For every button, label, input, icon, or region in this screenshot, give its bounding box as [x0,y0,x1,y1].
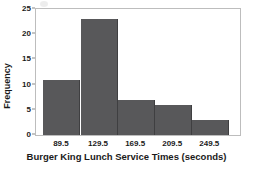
y-axis-tick-label: 10 [22,79,31,88]
y-axis-tick-label: 15 [22,54,31,63]
x-axis-tick-labels: 89.5129.5169.5209.5249.5 [35,137,241,150]
histogram-bar [118,100,155,135]
plot-area [35,8,241,136]
y-axis-title-text: Frequency [2,63,12,109]
x-axis-tick-label: 89.5 [53,139,69,148]
histogram-figure: Frequency 0510152025 89.5129.5169.5209.5… [0,0,253,174]
x-axis-tick-label: 249.5 [199,139,219,148]
histogram-bar [155,105,192,135]
y-axis-tick-label: 0 [27,130,31,139]
histogram-bar [81,19,118,135]
scan-artifact [40,1,48,7]
y-axis-tick-label: 25 [22,4,31,13]
y-axis-tick-labels: 0510152025 [14,8,35,136]
x-axis-title: Burger King Lunch Service Times (seconds… [0,151,253,162]
histogram-bar [192,120,229,135]
y-axis-tick-label: 5 [27,104,31,113]
y-axis-title: Frequency [0,34,14,138]
x-axis-tick-label: 129.5 [88,139,108,148]
histogram-bar [43,80,80,135]
x-axis-tick-label: 169.5 [125,139,145,148]
x-axis-tick-label: 209.5 [162,139,182,148]
y-axis-tick-label: 20 [22,29,31,38]
